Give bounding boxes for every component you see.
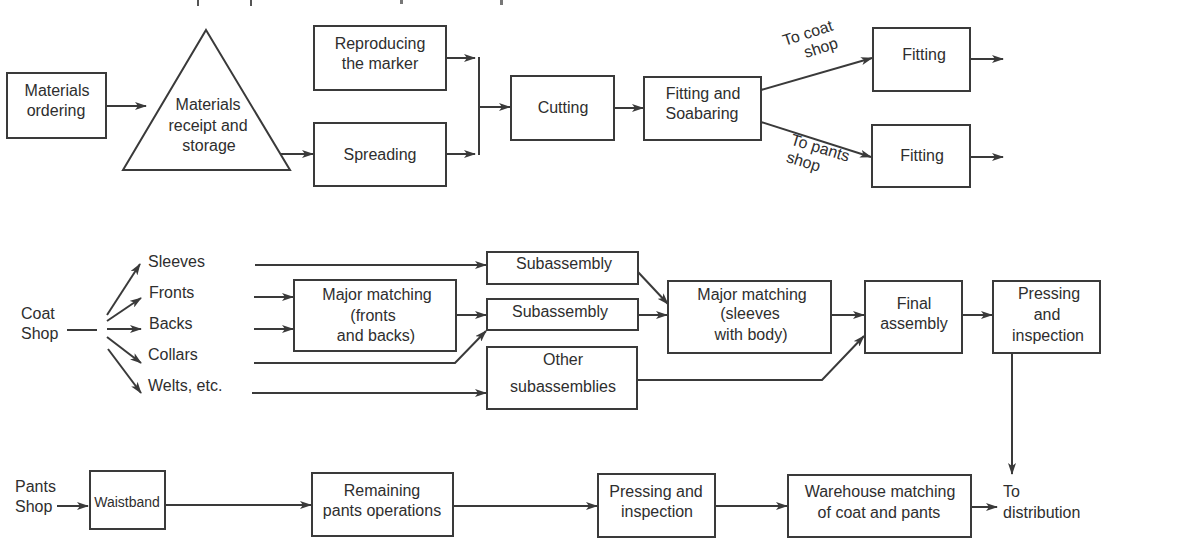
clipped-caption-fragment: [197, 0, 503, 6]
materials-receipt-label-3: storage: [182, 137, 235, 154]
svg-text:Final: Final: [897, 295, 932, 312]
svg-text:distribution: distribution: [1003, 504, 1080, 521]
fitting-coat-node: Fitting: [873, 28, 970, 91]
materials-receipt-label-2: receipt and: [168, 117, 247, 134]
svg-text:Shop: Shop: [15, 498, 52, 515]
svg-text:and: and: [1034, 306, 1061, 323]
part-collars: Collars: [148, 346, 198, 363]
coat-shop-source: Coat Shop: [21, 305, 58, 342]
svg-text:pants operations: pants operations: [323, 502, 441, 519]
svg-text:Major matching: Major matching: [322, 286, 431, 303]
subassembly-sleeves-node: Subassembly: [487, 252, 638, 284]
materials-receipt-storage-node: Materials receipt and storage: [123, 30, 290, 170]
materials-ordering-label-1: Materials: [25, 82, 90, 99]
pants-pressing-inspection-node: Pressing and inspection: [598, 474, 715, 537]
arrow-to-sleeves: [107, 264, 140, 315]
reproducing-marker-node: Reproducing the marker: [314, 26, 446, 90]
spreading-node: Spreading: [314, 123, 446, 186]
fitting-pants-label: Fitting: [900, 147, 944, 164]
materials-ordering-label-2: ordering: [27, 102, 86, 119]
fitting-soabaring-label-1: Fitting and: [666, 85, 741, 102]
svg-text:Shop: Shop: [21, 325, 58, 342]
svg-text:To: To: [1003, 483, 1020, 500]
cutting-label: Cutting: [538, 99, 589, 116]
svg-text:with body): with body): [714, 326, 788, 343]
svg-text:and backs): and backs): [337, 327, 415, 344]
subassembly-body-node: Subassembly: [487, 299, 638, 330]
arrow-to-fronts: [107, 298, 141, 321]
svg-text:Pressing: Pressing: [1018, 285, 1080, 302]
fitting-soabaring-node: Fitting and Soabaring: [644, 77, 761, 140]
svg-text:Pants: Pants: [15, 478, 56, 495]
svg-text:Coat: Coat: [21, 305, 55, 322]
to-coat-shop-label: To coat shop: [781, 17, 841, 66]
reproducing-label-2: the marker: [342, 55, 419, 72]
svg-text:of coat and pants: of coat and pants: [818, 504, 941, 521]
coat-parts-list: Sleeves Fronts Backs Collars Welts, etc.: [148, 253, 222, 394]
arrow-to-welts: [108, 349, 141, 393]
svg-text:Warehouse matching: Warehouse matching: [805, 483, 956, 500]
arrow-to-coat-shop: [761, 58, 872, 90]
svg-text:Remaining: Remaining: [344, 482, 420, 499]
major-matching-sleeves-body-node: Major matching (sleeves with body): [668, 281, 831, 353]
svg-text:Subassembly: Subassembly: [516, 255, 612, 272]
svg-text:Subassembly: Subassembly: [512, 303, 608, 320]
fitting-coat-label: Fitting: [902, 46, 946, 63]
svg-text:Pressing and: Pressing and: [609, 483, 702, 500]
svg-text:(sleeves: (sleeves: [720, 305, 780, 322]
part-welts: Welts, etc.: [148, 377, 222, 394]
part-backs: Backs: [149, 315, 193, 332]
svg-text:Waistband: Waistband: [94, 494, 160, 510]
final-assembly-node: Final assembly: [865, 281, 962, 353]
garment-production-flow-diagram: Materials ordering Materials receipt and…: [0, 0, 1187, 554]
spreading-label: Spreading: [344, 146, 417, 163]
other-subassemblies-node: Other subassemblies: [487, 347, 637, 409]
pants-shop-source: Pants Shop: [15, 478, 56, 515]
svg-text:assembly: assembly: [880, 315, 948, 332]
major-matching-fronts-backs-node: Major matching (fronts and backs): [294, 280, 456, 351]
svg-text:Major matching: Major matching: [697, 286, 806, 303]
part-fronts: Fronts: [149, 284, 194, 301]
part-sleeves: Sleeves: [148, 253, 205, 270]
coat-pressing-inspection-node: Pressing and inspection: [993, 281, 1100, 353]
svg-text:(fronts: (fronts: [350, 307, 395, 324]
svg-text:subassemblies: subassemblies: [510, 378, 616, 395]
materials-receipt-label-1: Materials: [176, 96, 241, 113]
arrow-sub1-to-major-matching: [638, 272, 668, 304]
waistband-node: Waistband: [90, 471, 165, 529]
to-pants-shop-label: To pants shop: [784, 131, 852, 182]
svg-text:inspection: inspection: [1012, 327, 1084, 344]
to-distribution-label: To distribution: [1003, 483, 1080, 521]
reproducing-label-1: Reproducing: [335, 35, 426, 52]
arrow-to-collars: [107, 337, 141, 363]
fitting-soabaring-label-2: Soabaring: [666, 105, 739, 122]
cutting-node: Cutting: [511, 76, 614, 140]
warehouse-matching-node: Warehouse matching of coat and pants: [788, 475, 971, 537]
svg-text:inspection: inspection: [621, 503, 693, 520]
materials-ordering-node: Materials ordering: [7, 73, 106, 138]
svg-text:Other: Other: [543, 351, 584, 368]
fitting-pants-node: Fitting: [872, 125, 970, 187]
remaining-pants-operations-node: Remaining pants operations: [312, 473, 453, 536]
